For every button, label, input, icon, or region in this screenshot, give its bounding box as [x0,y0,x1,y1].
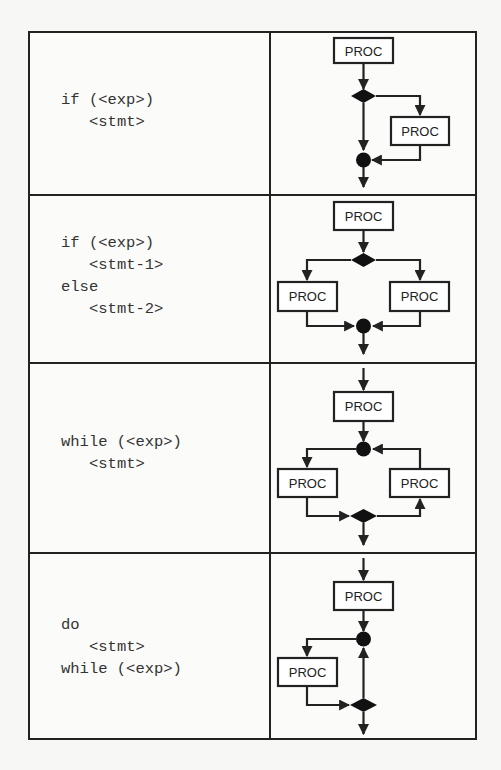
code-line: <stmt-1> [61,254,163,276]
code-snippet-if: if (<exp>)<stmt> [61,89,154,133]
code-snippet-do-while: do<stmt>while (<exp>) [61,614,182,680]
code-cell-if: if (<exp>)<stmt> [30,33,269,194]
code-line: <stmt> [61,636,182,658]
code-line: if (<exp>) [61,232,163,254]
code-line: <stmt-2> [61,298,163,320]
code-line: while (<exp>) [61,431,182,453]
code-line: <stmt> [61,111,154,133]
code-line: while (<exp>) [61,658,182,680]
code-cell-if-else: if (<exp>)<stmt-1>else<stmt-2> [30,196,269,362]
code-cell-do-while: do<stmt>while (<exp>) [30,554,269,740]
code-line: do [61,614,182,636]
column-divider [269,33,271,738]
code-snippet-if-else: if (<exp>)<stmt-1>else<stmt-2> [61,232,163,320]
code-snippet-while: while (<exp>)<stmt> [61,431,182,475]
control-structure-table: if (<exp>)<stmt> if (<exp>)<stmt-1>else<… [28,31,477,740]
code-line: else [61,276,163,298]
code-cell-while: while (<exp>)<stmt> [30,364,269,552]
code-line: <stmt> [61,453,182,475]
code-line: if (<exp>) [61,89,154,111]
